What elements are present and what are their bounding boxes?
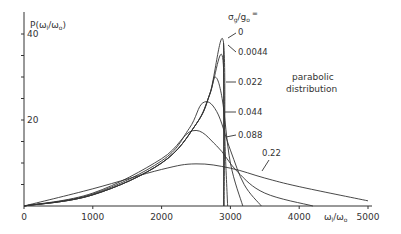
series-label: 0.044 <box>238 107 262 117</box>
series-label: 0.22 <box>262 148 281 158</box>
series-curve-0-022 <box>24 77 243 206</box>
series-curve-0 <box>24 38 225 206</box>
leader-line <box>226 135 236 137</box>
y-tick-label: 40 <box>27 29 39 39</box>
leader-line <box>228 45 236 52</box>
y-axis-label: P(ωl/ωo) <box>30 20 66 31</box>
axes <box>21 12 372 209</box>
curves <box>24 38 368 206</box>
annotation-distribution: distribution <box>286 84 337 94</box>
x-tick-label: 0 <box>21 212 27 222</box>
series-label: 0 <box>238 27 243 37</box>
series-curve-0-22 <box>24 164 368 206</box>
text-layer: 010002000300040005000204000.00440.0220.0… <box>21 27 380 222</box>
leader-line <box>228 33 236 38</box>
series-label: 0.088 <box>238 130 262 140</box>
x-tick-label: 1000 <box>81 212 104 222</box>
x-tick-label: 3000 <box>219 212 242 222</box>
x-tick-label: 4000 <box>288 212 311 222</box>
x-axis-label: ωl/ωo <box>324 212 348 223</box>
y-tick-label: 20 <box>27 115 39 125</box>
leader-line <box>262 160 269 171</box>
x-tick-label: 2000 <box>150 212 173 222</box>
series-label: 0.022 <box>238 77 262 87</box>
x-tick-label: 5000 <box>357 212 380 222</box>
series-curve-0-0044 <box>24 54 228 206</box>
chart: 010002000300040005000204000.00440.0220.0… <box>0 0 401 234</box>
series-label: 0.0044 <box>238 47 268 57</box>
annotation-parabolic: parabolic <box>292 72 334 82</box>
legend-title: σg/go= <box>228 10 258 24</box>
